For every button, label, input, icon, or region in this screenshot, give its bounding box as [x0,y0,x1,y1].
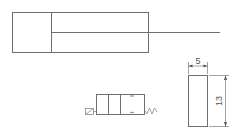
arrow-up-icon [224,76,227,81]
part-rect [189,76,208,127]
width-label: 5 [195,56,200,66]
diagram-canvas: 5 13 [0,0,242,139]
arrow-left-icon [189,65,193,68]
solenoid-icon [86,109,97,115]
dimensioned-part: 5 13 [189,56,230,127]
directional-valve [86,95,158,115]
arrow-right-icon [204,65,208,68]
arrow-down-icon [224,122,227,127]
spring-icon [145,108,158,114]
cylinder [13,13,221,53]
height-label: 13 [214,96,224,106]
